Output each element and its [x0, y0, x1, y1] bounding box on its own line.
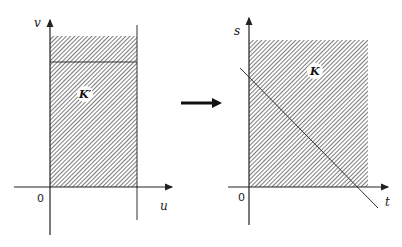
region-label-k: K	[309, 65, 320, 78]
diagram-canvas: K′ v u 0 K s t 0	[0, 0, 402, 247]
t-axis-label: t	[385, 195, 390, 209]
s-axis-label: s	[234, 24, 240, 38]
arrowhead-icon	[212, 98, 222, 108]
origin-label-right: 0	[238, 191, 245, 204]
v-axis-label: v	[34, 16, 41, 30]
origin-label-left: 0	[37, 192, 44, 205]
u-axis-label: u	[160, 199, 168, 213]
right-panel: K s t 0	[228, 18, 390, 225]
left-panel: K′ v u 0	[14, 16, 172, 235]
region-k	[249, 40, 368, 187]
region-label-k-prime: K′	[78, 88, 92, 101]
region-k-prime	[50, 36, 137, 187]
